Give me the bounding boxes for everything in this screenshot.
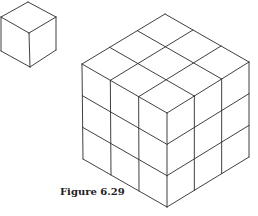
cube-edge	[1, 17, 29, 33]
cube-edge	[82, 64, 83, 159]
cube-edge	[29, 33, 30, 67]
left-face-grid-line	[82, 96, 167, 145]
cube-edge	[28, 2, 56, 17]
figure-caption: Figure 6.29	[60, 186, 125, 197]
right-face-grid-line	[167, 125, 249, 175]
cube-edge	[1, 2, 28, 17]
left-face-grid-line	[83, 127, 167, 175]
cube-edge	[1, 51, 30, 67]
cube-edge	[29, 17, 56, 33]
cube-edge	[83, 159, 167, 207]
left-face-grid-line	[110, 80, 111, 175]
large-3x3x3-cube	[82, 14, 249, 207]
figure-6-29: Figure 6.29	[0, 0, 258, 216]
small-unit-cube	[1, 2, 56, 67]
cube-diagram	[0, 0, 258, 216]
cube-edge	[30, 50, 56, 67]
right-face-grid-line	[167, 94, 249, 145]
cube-edge	[167, 157, 249, 207]
